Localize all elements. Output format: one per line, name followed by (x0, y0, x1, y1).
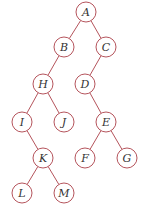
node-label: I (19, 116, 25, 129)
tree-nodes: ABCHDIJEKFGLM (12, 2, 137, 203)
node-label: L (17, 187, 25, 200)
edge-B-H (48, 56, 59, 76)
node-B: B (54, 37, 74, 57)
node-label: G (123, 152, 132, 165)
node-M: M (54, 183, 74, 203)
node-G: G (117, 148, 137, 168)
edge-K-L (27, 167, 38, 185)
edge-A-C (91, 21, 101, 39)
edge-E-F (90, 131, 101, 150)
node-label: H (37, 78, 48, 91)
edge-H-I (27, 93, 38, 113)
node-label: K (38, 152, 48, 165)
node-label: B (59, 41, 68, 54)
node-label: C (102, 41, 111, 54)
edge-E-G (111, 131, 122, 150)
node-H: H (33, 74, 53, 94)
node-label: F (80, 152, 89, 165)
node-C: C (96, 37, 116, 57)
node-label: E (101, 116, 110, 129)
node-I: I (12, 112, 32, 132)
node-E: E (96, 112, 116, 132)
node-J: J (54, 112, 74, 132)
edge-C-D (90, 56, 101, 76)
node-K: K (33, 148, 53, 168)
edge-K-M (48, 167, 59, 185)
node-label: J (60, 116, 67, 129)
node-F: F (75, 148, 95, 168)
edge-D-E (90, 93, 101, 113)
node-D: D (75, 74, 95, 94)
edge-I-K (27, 131, 38, 150)
edge-H-J (48, 93, 59, 113)
node-L: L (12, 183, 32, 203)
binary-tree-diagram: ABCHDIJEKFGLM (0, 0, 143, 213)
edge-A-B (69, 20, 80, 38)
node-label: D (80, 78, 90, 91)
node-label: A (81, 6, 90, 19)
node-label: M (57, 187, 70, 200)
node-A: A (76, 2, 96, 22)
